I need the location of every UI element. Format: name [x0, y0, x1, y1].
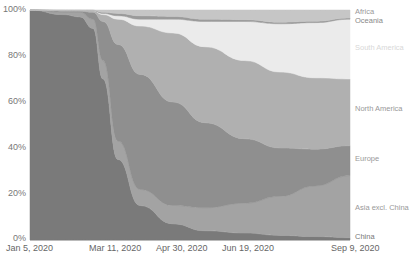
series-label-europe: Europe	[355, 154, 379, 163]
y-tick-40: 40%	[0, 142, 26, 152]
y-tick-20: 20%	[0, 188, 26, 198]
series-label-asia-excl-china: Asia excl. China	[355, 203, 409, 212]
stacked-area-chart	[0, 0, 410, 257]
y-tick-80: 80%	[0, 50, 26, 60]
y-tick-100: 100%	[0, 4, 26, 14]
x-tick-jun19: Jun 19, 2020	[222, 243, 274, 253]
series-label-south-america: South America	[355, 43, 404, 52]
series-label-north-america: North America	[355, 104, 403, 113]
x-tick-jan5: Jan 5, 2020	[6, 243, 53, 253]
x-tick-mar11: Mar 11, 2020	[89, 243, 141, 253]
series-label-china: China	[355, 232, 375, 241]
x-tick-sep9: Sep 9, 2020	[331, 243, 380, 253]
series-label-africa: Africa	[355, 7, 374, 16]
series-label-oceania: Oceania	[355, 16, 383, 25]
x-tick-apr30: Apr 30, 2020	[156, 243, 208, 253]
y-tick-60: 60%	[0, 96, 26, 106]
y-tick-0: 0%	[0, 233, 26, 243]
